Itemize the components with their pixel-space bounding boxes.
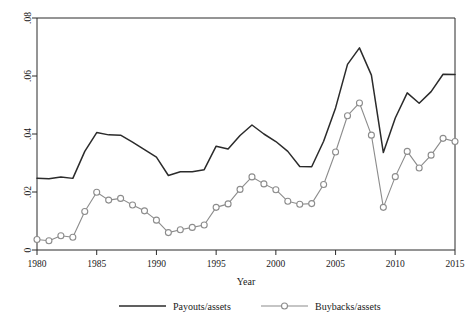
y-tick-label: .08 [23,12,33,24]
data-point-marker [273,187,279,193]
data-point-marker [165,230,171,236]
x-axis-ticks: 19801985199019952000200520102015 [28,250,465,269]
legend-label-payouts: Payouts/assets [173,301,231,312]
y-tick-label: .04 [23,128,33,140]
y-axis-ticks: 0.02.04.06.08 [23,12,37,253]
data-point-marker [249,174,255,180]
data-point-marker [58,233,64,239]
legend-marker-buybacks-circle-icon [282,303,288,309]
data-point-marker [153,217,159,223]
data-point-marker [440,135,446,141]
x-tick-label: 1985 [87,259,106,269]
data-point-marker [118,195,124,201]
legend-label-buybacks: Buybacks/assets [315,301,381,312]
data-point-marker [34,237,40,243]
data-point-marker [416,165,422,171]
x-tick-label: 2000 [266,259,285,269]
axes [37,18,455,250]
data-point-marker [201,222,207,228]
data-point-marker [225,201,231,207]
y-tick-label: 0 [23,247,33,252]
y-tick-label: .02 [23,186,33,198]
x-tick-label: 2010 [386,259,405,269]
series-line-buybacks [37,103,455,241]
data-point-marker [368,132,374,138]
series-line-payouts [37,48,455,179]
x-tick-label: 2015 [446,259,465,269]
data-point-marker [261,181,267,187]
data-point-marker [321,181,327,187]
data-point-marker [46,238,52,244]
x-tick-label: 1980 [28,259,47,269]
x-tick-label: 1990 [147,259,166,269]
data-series-group [34,48,458,244]
data-point-marker [94,189,100,195]
data-point-marker [285,198,291,204]
data-point-marker [106,197,112,203]
data-point-marker [141,208,147,214]
data-point-marker [309,201,315,207]
data-point-marker [70,234,76,240]
data-point-marker [333,149,339,155]
data-point-marker [345,113,351,119]
data-point-marker [82,208,88,214]
x-tick-label: 2005 [326,259,345,269]
data-point-marker [428,152,434,158]
data-point-marker [130,202,136,208]
data-point-marker [189,224,195,230]
data-point-marker [452,139,458,145]
x-axis-title: Year [237,276,256,287]
line-chart: 0.02.04.06.08 19801985199019952000200520… [0,0,473,321]
y-tick-label: .06 [23,70,33,82]
data-point-marker [213,204,219,210]
x-tick-label: 1995 [207,259,226,269]
data-point-marker [392,174,398,180]
data-point-marker [380,204,386,210]
data-point-marker [404,148,410,154]
data-point-marker [237,186,243,192]
data-point-marker [177,227,183,233]
data-point-marker [356,100,362,106]
chart-legend: Payouts/assets Buybacks/assets [119,301,381,312]
data-point-marker [297,201,303,207]
figure-container: 0.02.04.06.08 19801985199019952000200520… [0,0,473,321]
